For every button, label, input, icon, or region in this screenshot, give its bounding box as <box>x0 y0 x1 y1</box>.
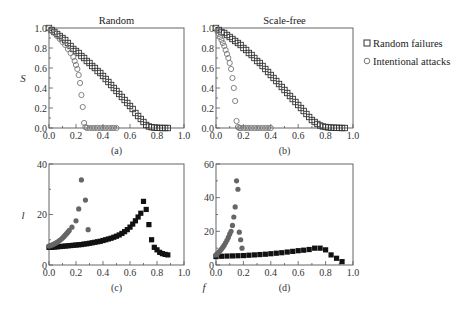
data-point <box>285 249 290 254</box>
panel-caption: (a) <box>111 145 122 157</box>
x-tick-label: 0.4 <box>97 267 110 278</box>
data-point <box>73 218 78 223</box>
data-point <box>234 178 239 183</box>
data-point <box>235 253 240 258</box>
y-tick-label: 20 <box>37 209 47 220</box>
y-axis-label: l <box>21 209 24 221</box>
series-intentional-attacks <box>213 178 244 257</box>
data-point <box>334 256 339 261</box>
x-tick-label: 0.8 <box>319 267 332 278</box>
legend-square-marker <box>364 40 370 46</box>
series-intentional-attacks <box>213 25 273 130</box>
y-axis-label: S <box>20 72 26 84</box>
x-tick-label: 1.0 <box>178 130 191 141</box>
data-point <box>268 251 273 256</box>
x-axis-label: f <box>202 281 207 293</box>
y-tick-label: 0.8 <box>202 43 215 54</box>
data-point <box>274 251 279 256</box>
data-point <box>246 253 251 258</box>
panel-caption: (b) <box>279 145 291 157</box>
data-point <box>231 214 236 219</box>
data-point <box>80 104 85 109</box>
x-tick-label: 0.8 <box>319 130 332 141</box>
data-point <box>323 247 328 252</box>
y-tick-label: 0.4 <box>35 83 48 94</box>
data-point <box>149 237 154 242</box>
panel-title: Random <box>99 15 135 26</box>
x-tick-label: 0.4 <box>97 130 110 141</box>
data-point <box>312 246 317 251</box>
panel-a-random-S: 0.00.20.40.60.81.00.00.20.40.60.81.0Rand… <box>20 15 190 157</box>
x-tick-label: 1.0 <box>347 130 360 141</box>
data-point <box>224 253 229 258</box>
panel-caption: (c) <box>111 282 122 294</box>
data-point <box>69 225 74 230</box>
x-tick-label: 1.0 <box>347 267 360 278</box>
plot-frame <box>216 28 353 128</box>
legend-label-random-failures: Random failures <box>373 38 443 49</box>
x-tick-label: 0.6 <box>292 130 305 141</box>
data-point <box>301 248 306 253</box>
x-tick-label: 0.2 <box>70 267 83 278</box>
y-tick-label: 0.8 <box>35 43 48 54</box>
panel-c-random-l: 0.00.20.40.60.81.002040(c)l <box>21 159 190 295</box>
y-tick-label: 0.0 <box>35 123 48 134</box>
data-point <box>307 247 312 252</box>
y-tick-label: 0.2 <box>202 103 215 114</box>
x-tick-label: 0.2 <box>237 267 250 278</box>
legend: Random failures Intentional attacks <box>364 38 450 67</box>
legend-label-intentional-attacks: Intentional attacks <box>373 56 450 67</box>
y-tick-label: 0.4 <box>202 83 215 94</box>
data-point <box>241 253 246 258</box>
y-tick-label: 0.2 <box>35 103 48 114</box>
data-point <box>239 246 244 251</box>
data-point <box>165 252 170 257</box>
data-point <box>237 230 242 235</box>
series-random-failures <box>46 199 170 258</box>
series-random-failures <box>213 25 347 130</box>
x-tick-label: 0.8 <box>151 130 164 141</box>
data-point <box>233 98 238 103</box>
data-point <box>230 253 235 258</box>
x-tick-label: 1.0 <box>178 267 191 278</box>
panel-d-scalefree-l: 0.00.20.40.60.81.00204060(d)f <box>202 159 359 295</box>
y-tick-label: 0 <box>42 260 47 271</box>
panel-b-scalefree-S: 0.00.20.40.60.81.00.00.20.40.60.81.0Scal… <box>202 15 360 157</box>
y-tick-label: 0.6 <box>202 63 215 74</box>
x-tick-label: 0.4 <box>265 130 278 141</box>
data-point <box>141 199 146 204</box>
y-tick-label: 0.0 <box>202 123 215 134</box>
y-tick-label: 40 <box>37 159 47 170</box>
panel-title: Scale-free <box>263 15 306 26</box>
data-point <box>318 246 323 251</box>
data-point <box>79 177 84 182</box>
data-point <box>231 85 236 90</box>
y-tick-label: 0 <box>209 260 214 271</box>
figure: 0.00.20.40.60.81.00.00.20.40.60.81.0Rand… <box>0 0 462 310</box>
x-tick-label: 0.4 <box>265 267 278 278</box>
data-point <box>339 259 344 264</box>
data-point <box>144 207 149 212</box>
data-point <box>234 118 239 123</box>
data-point <box>252 252 257 257</box>
data-point <box>76 206 81 211</box>
series-random-failures <box>213 246 344 265</box>
y-tick-label: 20 <box>204 226 214 237</box>
data-point <box>228 229 233 234</box>
data-point <box>83 198 88 203</box>
data-point <box>86 227 91 232</box>
data-point <box>79 92 84 97</box>
data-point <box>228 66 233 71</box>
data-point <box>230 223 235 228</box>
x-tick-label: 0.2 <box>70 130 83 141</box>
data-point <box>296 248 301 253</box>
legend-circle-marker <box>364 58 370 64</box>
data-point <box>227 60 232 65</box>
x-tick-label: 0.6 <box>124 130 137 141</box>
data-point <box>279 250 284 255</box>
data-point <box>146 222 151 227</box>
y-tick-label: 40 <box>204 192 214 203</box>
y-tick-label: 60 <box>204 159 214 170</box>
x-tick-label: 0.6 <box>124 267 137 278</box>
x-tick-label: 0.8 <box>151 267 164 278</box>
